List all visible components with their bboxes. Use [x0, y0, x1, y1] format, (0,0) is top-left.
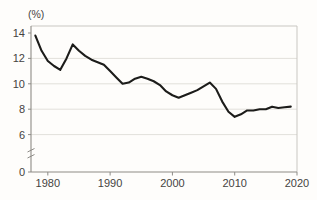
y-tick-label-10: 10	[13, 78, 25, 90]
y-tick-label-6: 6	[19, 129, 25, 141]
x-tick-label-2000: 2000	[160, 177, 184, 189]
y-tick-label-14: 14	[13, 27, 25, 39]
x-tick-label-1990: 1990	[98, 177, 122, 189]
x-tick-label-2010: 2010	[222, 177, 246, 189]
y-tick-label-8: 8	[19, 103, 25, 115]
x-tick-label-2020: 2020	[285, 177, 309, 189]
chart-background	[0, 0, 317, 200]
chart-container: 068101214 19801990200020102020 (%)	[0, 0, 317, 200]
y-axis-unit-label: (%)	[28, 8, 44, 20]
x-tick-label-1980: 1980	[36, 177, 60, 189]
y-tick-label-0: 0	[19, 166, 25, 178]
y-tick-label-12: 12	[13, 52, 25, 64]
line-chart: 068101214 19801990200020102020 (%)	[0, 0, 317, 200]
